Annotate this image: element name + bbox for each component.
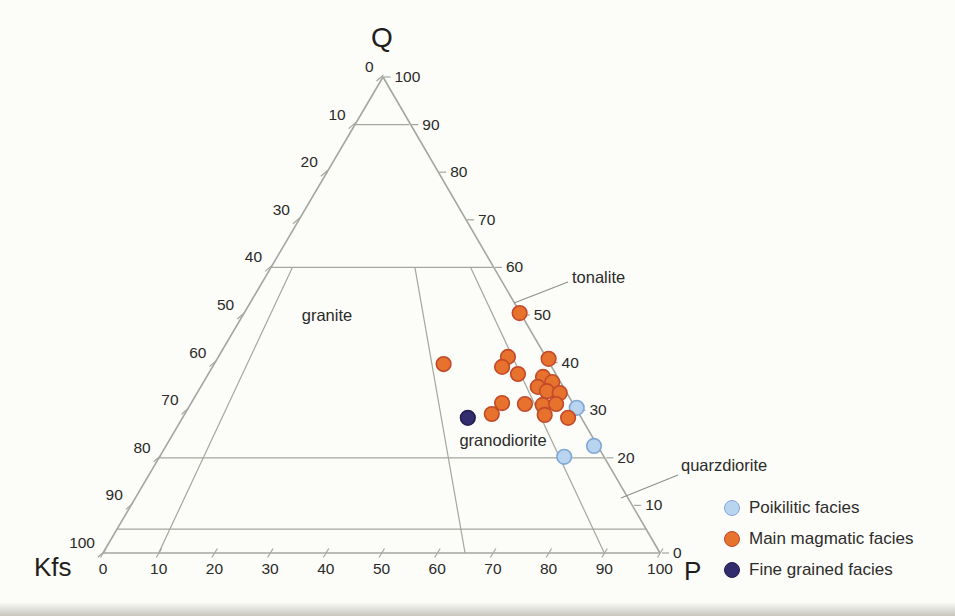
bottom-axis-tick-label: 30 — [261, 560, 279, 577]
legend-item-main-magmatic: Main magmatic facies — [724, 529, 913, 549]
bottom-axis-tick-label: 40 — [317, 560, 335, 577]
right-axis-tick-label: 0 — [673, 544, 682, 561]
data-point-main-magmatic-facies — [541, 351, 556, 366]
bottom-axis-tick-label: 20 — [206, 560, 224, 577]
right-axis-tick-label: 40 — [562, 354, 580, 371]
data-point-main-magmatic-facies — [512, 306, 527, 321]
left-axis-tick-label: 70 — [161, 391, 179, 408]
data-point-main-magmatic-facies — [561, 411, 576, 426]
bottom-axis-tick-label: 0 — [99, 560, 108, 577]
field-label-granite: granite — [302, 306, 352, 325]
data-point-main-magmatic-facies — [518, 397, 533, 412]
right-axis-tick-label: 100 — [395, 68, 421, 85]
bottom-axis-tick-label: 80 — [540, 560, 558, 577]
legend-marker-poikilitic-icon — [724, 500, 740, 516]
right-axis-tick-label: 10 — [645, 496, 663, 513]
legend-marker-main-magmatic-icon — [724, 531, 740, 547]
bottom-axis-tick-label: 90 — [596, 560, 614, 577]
right-axis-tick-label: 30 — [589, 401, 607, 418]
left-axis-tick-label: 50 — [217, 296, 235, 313]
apex-label-q: Q — [371, 22, 393, 54]
quarzdiorite-leader-line — [621, 475, 678, 498]
bottom-axis-tick-label: 10 — [150, 560, 168, 577]
left-axis-tick-label: 100 — [69, 534, 95, 551]
data-point-main-magmatic-facies — [537, 408, 552, 423]
scan-edge-artifact — [0, 602, 955, 616]
legend-label-main-magmatic: Main magmatic facies — [749, 529, 913, 549]
data-point-fine-grained-facies — [461, 411, 476, 426]
right-axis-tick-label: 70 — [478, 211, 496, 228]
right-axis-tick-label: 20 — [617, 449, 635, 466]
field-label-quarzdiorite: quarzdiorite — [681, 456, 767, 475]
legend: Poikilitic facies Main magmatic facies F… — [724, 498, 913, 580]
right-axis-tick-label: 80 — [450, 163, 468, 180]
data-point-main-magmatic-facies — [484, 407, 499, 422]
left-axis-tick-label: 40 — [245, 248, 263, 265]
data-point-main-magmatic-facies — [549, 397, 564, 412]
data-point-poikilitic-facies — [557, 450, 572, 465]
legend-item-fine-grained: Fine grained facies — [724, 560, 913, 580]
right-axis-tick-label: 60 — [506, 258, 524, 275]
corner-label-p: P — [684, 556, 701, 587]
left-axis-tick-label: 20 — [301, 153, 319, 170]
corner-label-kfs: Kfs — [34, 552, 72, 583]
left-axis-tick-label: 0 — [365, 58, 374, 75]
right-axis-tick-label: 50 — [534, 306, 552, 323]
bottom-axis-tick-label: 60 — [429, 560, 447, 577]
bottom-axis-tick-label: 70 — [484, 560, 502, 577]
bottom-axis-tick-label: 50 — [373, 560, 391, 577]
left-axis-tick-label: 60 — [189, 344, 207, 361]
left-axis-tick-label: 30 — [273, 201, 291, 218]
bottom-axis-tick-label: 100 — [647, 560, 673, 577]
legend-item-poikilitic: Poikilitic facies — [724, 498, 913, 518]
legend-label-fine-grained: Fine grained facies — [749, 560, 893, 580]
tonalite-leader-line — [514, 282, 568, 303]
left-axis-tick-label: 80 — [133, 439, 151, 456]
left-axis-tick-label: 10 — [328, 106, 346, 123]
legend-marker-fine-grained-icon — [724, 562, 740, 578]
right-axis-tick-label: 90 — [422, 116, 440, 133]
field-label-tonalite: tonalite — [572, 268, 625, 287]
field-divider-65 — [415, 267, 465, 553]
data-point-main-magmatic-facies — [436, 357, 451, 372]
data-point-poikilitic-facies — [587, 439, 602, 454]
data-point-main-magmatic-facies — [511, 367, 526, 382]
field-label-granodiorite: granodiorite — [459, 431, 546, 450]
legend-label-poikilitic: Poikilitic facies — [749, 498, 860, 518]
left-axis-tick-label: 90 — [106, 486, 124, 503]
data-point-main-magmatic-facies — [495, 360, 510, 375]
qap-ternary-figure: 0102030405060708090100100908070605040302… — [0, 0, 955, 616]
